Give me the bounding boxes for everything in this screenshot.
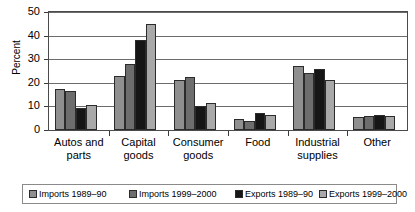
bar	[135, 40, 146, 130]
legend-label: Exports 1989–90	[245, 189, 313, 199]
x-axis-category-label: Other	[341, 136, 413, 149]
bar	[76, 108, 87, 130]
bar	[114, 76, 125, 130]
bar	[304, 73, 315, 130]
bar-group	[168, 12, 228, 130]
bar-group	[49, 12, 109, 130]
legend-item[interactable]: Imports 1999–2000	[129, 189, 217, 199]
y-axis-tick-label: 40	[0, 30, 40, 41]
bar	[174, 80, 185, 130]
legend-swatch-icon	[319, 190, 327, 198]
bar	[255, 113, 266, 130]
legend-item[interactable]: Exports 1999–2000	[319, 189, 407, 199]
bar	[86, 105, 97, 130]
legend-swatch-icon	[29, 190, 37, 198]
bar	[265, 115, 276, 130]
bar	[374, 115, 385, 130]
bar-group	[109, 12, 169, 130]
bar	[385, 116, 396, 130]
bar-group	[228, 12, 288, 130]
y-axis-tick-label: 20	[0, 77, 40, 88]
bar	[55, 89, 66, 130]
y-axis-tick-label: 0	[0, 124, 40, 135]
legend-label: Imports 1999–2000	[139, 189, 217, 199]
bar	[185, 77, 196, 130]
bar-chart-figure: Percent 01020304050 Autos andpartsCapita…	[0, 0, 415, 212]
bar	[125, 64, 136, 130]
bar	[206, 103, 217, 130]
bar	[234, 119, 245, 130]
bar	[293, 66, 304, 130]
legend-swatch-icon	[129, 190, 137, 198]
chart-legend: Imports 1989–90Imports 1999–2000Exports …	[22, 184, 397, 204]
legend-label: Exports 1999–2000	[329, 189, 407, 199]
bar	[314, 69, 325, 130]
y-axis-tick-label: 10	[0, 100, 40, 111]
legend-swatch-icon	[235, 190, 243, 198]
bar-group	[288, 12, 348, 130]
bar	[325, 80, 336, 130]
bar	[244, 121, 255, 130]
bar-groups	[49, 12, 407, 130]
bar-group	[347, 12, 407, 130]
legend-item[interactable]: Exports 1989–90	[235, 189, 313, 199]
legend-item[interactable]: Imports 1989–90	[29, 189, 107, 199]
bar	[146, 24, 157, 130]
x-axis-category-label-line1: Other	[341, 136, 413, 149]
bar	[364, 116, 375, 130]
bar	[195, 106, 206, 130]
legend-label: Imports 1989–90	[39, 189, 107, 199]
bar	[65, 91, 76, 130]
x-axis-category-label-line2: supplies	[282, 149, 354, 162]
y-axis-tick-label: 30	[0, 53, 40, 64]
y-axis-tick-label: 50	[0, 6, 40, 17]
x-axis-category-label-line2: goods	[162, 149, 234, 162]
bar	[353, 117, 364, 130]
